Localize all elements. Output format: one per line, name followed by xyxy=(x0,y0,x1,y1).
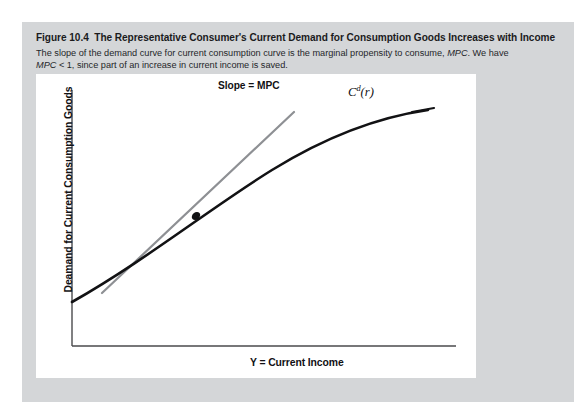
caption-line-1-text-b: . We have xyxy=(468,48,509,58)
slope-annotation-label: Slope = MPC xyxy=(218,80,279,91)
figure-number: Figure 10.4 xyxy=(36,32,89,43)
curve-label-tail: (r) xyxy=(361,85,374,99)
caption-line-2-mpc: MPC xyxy=(36,60,56,70)
caption-line-1-text-a: The slope of the demand curve for curren… xyxy=(36,48,445,58)
caption-line-2-text: < 1, since part of an increase in curren… xyxy=(59,60,288,70)
curve-name-label: Cd(r) xyxy=(348,84,374,100)
plot-card: Deamand for Current Consumption Goods Y … xyxy=(36,74,476,378)
y-axis-label: Deamand for Current Consumption Goods xyxy=(63,103,74,293)
figure-caption-block: Figure 10.4 The Representative Consumer'… xyxy=(36,31,558,72)
caption-line-2: MPC < 1, since part of an increase in cu… xyxy=(36,59,558,71)
demand-curve xyxy=(72,110,428,302)
figure-caption-text: The slope of the demand curve for curren… xyxy=(36,47,558,72)
figure-title: Figure 10.4 The Representative Consumer'… xyxy=(36,31,558,44)
caption-line-1-mpc: MPC xyxy=(447,48,467,58)
figure-title-text: The Representative Consumer's Current De… xyxy=(94,32,555,43)
caption-line-1: The slope of the demand curve for curren… xyxy=(36,47,558,59)
x-axis-label: Y = Current Income xyxy=(250,357,344,368)
demand-curve-chart xyxy=(36,74,476,378)
figure-panel: Figure 10.4 The Representative Consumer'… xyxy=(22,22,574,402)
